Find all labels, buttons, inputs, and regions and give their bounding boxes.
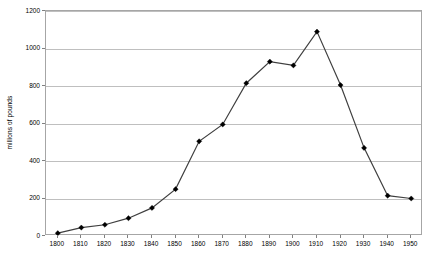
data-point-marker bbox=[338, 82, 343, 87]
x-tick-label: 1890 bbox=[254, 240, 284, 248]
line-chart: millions of pounds 020040060080010001200… bbox=[0, 0, 433, 260]
x-tick-label: 1810 bbox=[65, 240, 95, 248]
y-tick-label: 200 bbox=[14, 194, 40, 201]
y-tick-label: 600 bbox=[14, 119, 40, 126]
plot-area bbox=[45, 10, 422, 235]
series-millions-of-pounds bbox=[46, 11, 423, 236]
series-line bbox=[58, 32, 411, 234]
x-tick-label: 1900 bbox=[277, 240, 307, 248]
x-tick-label: 1950 bbox=[395, 240, 425, 248]
x-tick-label: 1830 bbox=[112, 240, 142, 248]
x-tick-label: 1940 bbox=[372, 240, 402, 248]
x-tick-label: 1910 bbox=[301, 240, 331, 248]
y-tick-label: 400 bbox=[14, 157, 40, 164]
data-point-marker bbox=[361, 145, 366, 150]
data-point-marker bbox=[126, 216, 131, 221]
x-tick-label: 1820 bbox=[89, 240, 119, 248]
y-tick-label: 800 bbox=[14, 82, 40, 89]
y-axis-title: millions of pounds bbox=[0, 0, 20, 245]
x-tick-label: 1870 bbox=[207, 240, 237, 248]
x-tick-label: 1880 bbox=[230, 240, 260, 248]
y-tick-mark bbox=[42, 235, 45, 236]
data-point-marker bbox=[409, 196, 414, 201]
x-tick-label: 1930 bbox=[348, 240, 378, 248]
data-point-marker bbox=[385, 193, 390, 198]
x-tick-label: 1800 bbox=[42, 240, 72, 248]
data-point-marker bbox=[79, 225, 84, 230]
data-point-marker bbox=[55, 231, 60, 236]
x-tick-label: 1860 bbox=[183, 240, 213, 248]
y-tick-label: 1200 bbox=[14, 7, 40, 14]
data-point-marker bbox=[102, 222, 107, 227]
x-tick-label: 1920 bbox=[325, 240, 355, 248]
y-tick-label: 1000 bbox=[14, 44, 40, 51]
y-tick-label: 0 bbox=[14, 232, 40, 239]
y-axis-title-label: millions of pounds bbox=[7, 96, 14, 150]
x-tick-label: 1850 bbox=[160, 240, 190, 248]
x-tick-label: 1840 bbox=[136, 240, 166, 248]
